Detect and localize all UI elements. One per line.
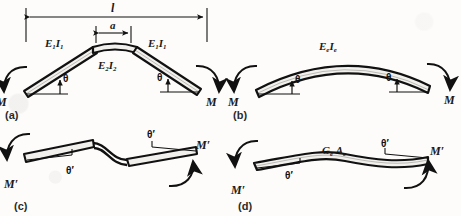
panel-a-left-moment-label: M	[0, 96, 7, 108]
panel-a-right-stiffness-label: E1I1	[148, 38, 166, 49]
panel-b-left-moment-label: M	[228, 96, 239, 108]
panel-b-graphics	[234, 64, 450, 97]
sym-I-sub: e	[334, 46, 337, 53]
sym-I: I	[329, 40, 333, 52]
panel-d-left-theta: θ′	[285, 171, 293, 181]
sym-E-sub: 2	[105, 65, 108, 72]
panel-caption-c: (c)	[14, 201, 27, 212]
sym-I-sub: 1	[163, 43, 166, 50]
panel-c-right-theta: θ′	[147, 130, 155, 140]
panel-c-left-moment-label: M′	[4, 178, 18, 190]
panel-caption-b: (b)	[233, 110, 247, 121]
panel-b-stiffness-label: EeIe	[319, 41, 337, 52]
sym-G: G	[322, 144, 330, 156]
sym-G-sub: e	[330, 150, 333, 157]
panel-b-left-theta: θ	[295, 75, 300, 85]
sym-E-sub: e	[326, 46, 329, 53]
sym-I-sub: 2	[113, 65, 116, 72]
panel-d-right-theta: θ′	[381, 139, 389, 149]
panel-d-stiffness-label: Ge Ae	[322, 145, 346, 156]
span-label-a: a	[110, 20, 116, 31]
panel-b-right-moment-label: M	[444, 94, 455, 106]
panel-a-right-member	[133, 47, 201, 95]
sym-E-sub: 1	[52, 43, 55, 50]
panel-d-right-moment-label: M′	[430, 145, 444, 157]
sym-A-sub: e	[343, 150, 346, 157]
panel-a-right-theta: θ	[157, 73, 162, 83]
sym-E-sub: 1	[155, 43, 158, 50]
panel-b-left-moment-arrow	[234, 66, 257, 92]
panel-b-right-theta: θ	[386, 73, 391, 83]
panel-c-left-theta: θ′	[66, 166, 74, 176]
panel-caption-a: (a)	[5, 110, 18, 121]
panel-c-center-connector	[93, 143, 127, 165]
span-label-l: l	[111, 2, 114, 14]
panel-d-right-angle-marker	[385, 148, 428, 158]
panel-c-right-moment-arrow	[169, 161, 193, 186]
panel-caption-d: (d)	[238, 201, 252, 212]
panel-a-right-moment-label: M	[206, 96, 217, 108]
panel-a-left-moment-arrow	[4, 67, 27, 92]
sym-I-sub: 1	[60, 43, 63, 50]
panel-a-left-stiffness-label: E1I1	[45, 38, 63, 49]
panel-c-graphics	[7, 134, 197, 186]
panel-a-left-theta: θ	[63, 74, 68, 84]
span-dimension-l	[26, 8, 207, 42]
panel-c-right-moment-label: M′	[196, 139, 210, 151]
panel-a-center-member	[93, 44, 137, 54]
panel-a-center-stiffness-label: E2I2	[98, 60, 116, 71]
panel-d-left-moment-label: M′	[231, 184, 245, 196]
sym-A: A	[336, 144, 343, 156]
